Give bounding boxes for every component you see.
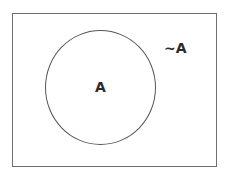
set-a-label: A [95,80,106,94]
complement-label: ~A [164,41,187,55]
